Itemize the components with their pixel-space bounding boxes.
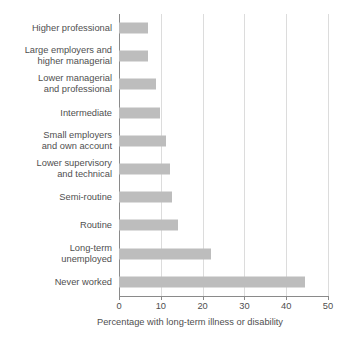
bar xyxy=(119,276,305,287)
tick-mark xyxy=(244,296,245,300)
bar-row: Semi-routine xyxy=(0,183,344,211)
tick-mark xyxy=(161,296,162,300)
tick-mark xyxy=(286,296,287,300)
tick-mark xyxy=(119,296,120,300)
x-axis-title: Percentage with long-term illness or dis… xyxy=(0,317,344,327)
category-label: Long-term unemployed xyxy=(0,243,112,265)
bar-row: Higher professional xyxy=(0,14,344,42)
bar xyxy=(119,107,160,118)
x-axis-ticks: 01020304050 xyxy=(0,296,344,316)
x-tick-label: 30 xyxy=(239,301,249,311)
x-tick-label: 0 xyxy=(116,301,121,311)
category-label: Intermediate xyxy=(0,107,112,118)
bar-row: Never worked xyxy=(0,268,344,296)
category-label: Semi-routine xyxy=(0,192,112,203)
category-label: Lower managerial and professional xyxy=(0,73,112,95)
category-label: Large employers and higher managerial xyxy=(0,45,112,67)
bar xyxy=(119,135,166,146)
bar xyxy=(119,79,156,90)
bar xyxy=(119,51,148,62)
x-tick-label: 10 xyxy=(156,301,166,311)
bar-chart: Higher professionalLarge employers and h… xyxy=(0,0,344,339)
bar xyxy=(119,220,178,231)
bar-row: Lower managerial and professional xyxy=(0,70,344,98)
x-tick-label: 40 xyxy=(281,301,291,311)
bar xyxy=(119,192,172,203)
bar xyxy=(119,248,211,259)
x-tick-label: 50 xyxy=(323,301,333,311)
tick-mark xyxy=(203,296,204,300)
bar-row: Routine xyxy=(0,211,344,239)
category-label: Never worked xyxy=(0,276,112,287)
bar xyxy=(119,23,148,34)
category-label: Routine xyxy=(0,220,112,231)
category-label: Small employers and own account xyxy=(0,130,112,152)
bar-row: Long-term unemployed xyxy=(0,240,344,268)
bar-row: Lower supervisory and technical xyxy=(0,155,344,183)
bar-row: Intermediate xyxy=(0,99,344,127)
x-tick-label: 20 xyxy=(197,301,207,311)
bar-row: Small employers and own account xyxy=(0,127,344,155)
bar xyxy=(119,164,170,175)
bar-row: Large employers and higher managerial xyxy=(0,42,344,70)
tick-mark xyxy=(328,296,329,300)
bar-rows: Higher professionalLarge employers and h… xyxy=(0,14,344,296)
category-label: Lower supervisory and technical xyxy=(0,158,112,180)
category-label: Higher professional xyxy=(0,23,112,34)
